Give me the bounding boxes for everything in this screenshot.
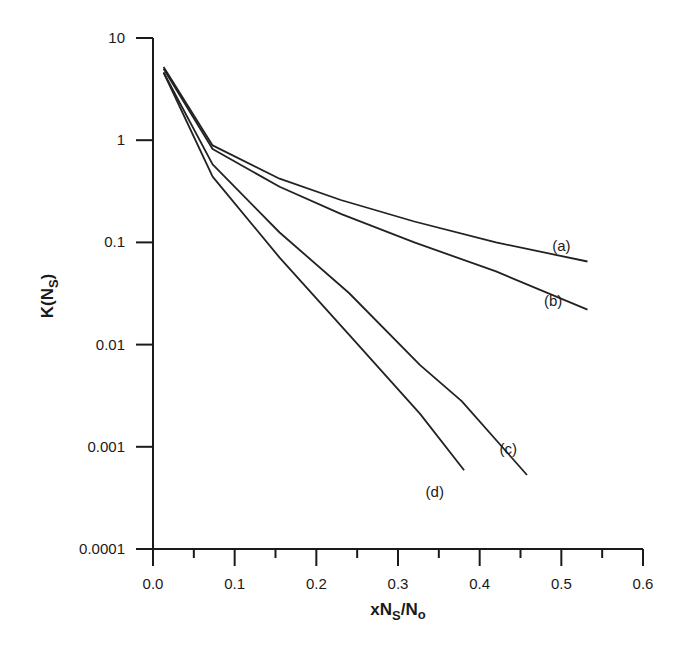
x-tick-label: 0.6 (633, 575, 654, 592)
curve-label-b: (b) (544, 292, 562, 309)
curve-b (164, 69, 588, 310)
y-tick-label: 1 (117, 131, 125, 148)
y-tick-label: 0.001 (87, 438, 125, 455)
y-axis-title: K(NS) (38, 274, 61, 319)
x-tick-label: 0.3 (388, 575, 409, 592)
curve-label-a: (a) (552, 237, 570, 254)
curve-d (164, 73, 465, 471)
curve-label-d: (d) (426, 483, 444, 500)
curve-a (164, 67, 588, 262)
plot-area: 1010.10.010.0010.00010.00.10.20.30.40.50… (0, 0, 687, 651)
y-tick-label: 10 (108, 29, 125, 46)
chart: 1010.10.010.0010.00010.00.10.20.30.40.50… (0, 0, 687, 651)
x-tick-label: 0.1 (224, 575, 245, 592)
y-tick-label: 0.0001 (79, 540, 125, 557)
curve-label-c: (c) (500, 440, 518, 457)
x-tick-label: 0.4 (469, 575, 490, 592)
y-tick-label: 0.1 (104, 233, 125, 250)
curve-c (164, 73, 527, 476)
x-tick-label: 0.5 (551, 575, 572, 592)
curves (164, 67, 588, 475)
y-tick-label: 0.01 (96, 336, 125, 353)
x-axis-title: xNS/No (370, 600, 425, 623)
curve-labels: (a)(b)(c)(d) (426, 237, 571, 501)
x-tick-label: 0.2 (306, 575, 327, 592)
x-tick-label: 0.0 (143, 575, 164, 592)
